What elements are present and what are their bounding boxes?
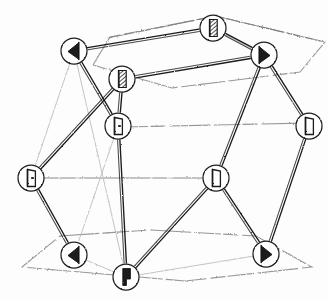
graph-node[interactable] bbox=[203, 165, 229, 191]
faint-edge-n2-n7 bbox=[35, 64, 69, 164]
faint-edge-n10-n11 bbox=[140, 256, 252, 274]
graph-node[interactable] bbox=[61, 38, 87, 64]
graph-canvas bbox=[0, 0, 328, 299]
graph-node[interactable] bbox=[296, 113, 322, 139]
graph-node[interactable] bbox=[200, 15, 226, 41]
faint-edge-n3-n1 bbox=[225, 35, 251, 49]
node-layer bbox=[18, 15, 322, 290]
flag-outline-dot-icon bbox=[27, 170, 35, 187]
faint-edge-n9-n5 bbox=[79, 139, 114, 241]
figure-root bbox=[0, 0, 328, 299]
frame-mid-band-2 bbox=[122, 123, 308, 127]
faint-edge-n9-n11 bbox=[87, 260, 113, 271]
graph-node[interactable] bbox=[18, 165, 44, 191]
flag-hatched-icon bbox=[119, 71, 127, 88]
edge-n2-n5 bbox=[80, 62, 112, 114]
flag-outline-dot-icon bbox=[114, 118, 122, 135]
faint-edge-n2-n11 bbox=[77, 65, 123, 264]
edge-n3-n4 bbox=[136, 56, 251, 78]
graph-node[interactable] bbox=[253, 241, 279, 267]
edge-n2-n1 bbox=[88, 29, 200, 50]
graph-node[interactable] bbox=[109, 66, 135, 92]
flag-hatched-icon bbox=[210, 20, 218, 37]
edge-n6-n10 bbox=[269, 139, 305, 241]
graph-node[interactable] bbox=[113, 264, 139, 290]
graph-node[interactable] bbox=[105, 113, 131, 139]
faint-edge-layer bbox=[35, 35, 252, 275]
graph-node[interactable] bbox=[251, 42, 277, 68]
flag-outline-icon bbox=[212, 170, 220, 187]
edge-n3-n8 bbox=[220, 68, 260, 166]
edge-n8-n11 bbox=[135, 188, 208, 268]
flag-outline-icon bbox=[305, 118, 313, 135]
graph-node[interactable] bbox=[61, 242, 87, 268]
edge-n4-n5 bbox=[118, 93, 122, 112]
